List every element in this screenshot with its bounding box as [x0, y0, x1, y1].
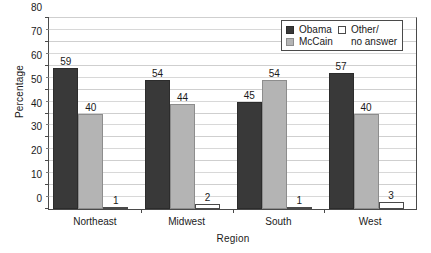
bar-mccain-northeast: 40 [78, 114, 103, 210]
y-axis-minor-tick [46, 124, 49, 125]
bar-value-label: 45 [244, 90, 255, 101]
y-axis-tick [45, 160, 49, 161]
y-axis-minor-tick [46, 172, 49, 173]
legend-label-no-answer: no answer [351, 36, 397, 47]
bar-chart: Percentage 01020304050607080 NortheastMi… [0, 0, 431, 253]
bar-value-label: 3 [388, 190, 394, 201]
y-axis-label: 30 [31, 121, 42, 132]
y-axis-minor-tick [46, 101, 49, 102]
bar-value-label: 2 [205, 192, 211, 203]
legend-label-obama: Obama [299, 24, 333, 35]
y-axis-minor-tick [46, 196, 49, 197]
y-axis-label: 80 [31, 2, 42, 13]
y-axis-minor-tick [46, 77, 49, 78]
x-axis-category-label: Midwest [168, 216, 205, 227]
y-axis-label: 50 [31, 73, 42, 84]
bar-other-south: 1 [287, 207, 312, 209]
bar-value-label: 40 [85, 102, 96, 113]
y-axis-minor-tick [46, 53, 49, 54]
legend-swatch-obama [286, 26, 294, 34]
x-axis-tick [324, 209, 325, 213]
y-axis-label: 0 [36, 193, 42, 204]
bar-obama-south: 45 [237, 102, 262, 209]
y-axis-tick [45, 136, 49, 137]
bar-obama-midwest: 54 [145, 80, 170, 209]
gridline [49, 89, 416, 90]
y-axis-tick [45, 89, 49, 90]
legend-swatch-other [338, 26, 346, 34]
y-axis-label: 40 [31, 97, 42, 108]
y-axis-tick [45, 113, 49, 114]
bar-value-label: 59 [60, 56, 71, 67]
bar-value-label: 1 [297, 195, 303, 206]
chart-legend: Obama Other/ McCain no answer [281, 20, 403, 51]
bar-other-midwest: 2 [195, 204, 220, 209]
gridline [49, 17, 416, 18]
gridline [49, 53, 416, 54]
y-axis-tick [45, 41, 49, 42]
legend-swatch-blank [338, 38, 346, 46]
legend-label-mccain: McCain [299, 36, 333, 47]
bar-value-label: 1 [113, 195, 119, 206]
y-axis-tick [45, 184, 49, 185]
gridline [49, 65, 416, 66]
y-axis-minor-tick [46, 29, 49, 30]
y-axis-title: Percentage [14, 32, 25, 152]
bar-mccain-midwest: 44 [170, 104, 195, 209]
bar-obama-northeast: 59 [53, 68, 78, 209]
bar-value-label: 57 [336, 61, 347, 72]
y-axis-minor-tick [46, 148, 49, 149]
x-axis-tick [233, 209, 234, 213]
x-axis-category-label: South [265, 216, 291, 227]
y-axis-tick [45, 65, 49, 66]
bar-value-label: 54 [269, 68, 280, 79]
y-axis-label: 20 [31, 145, 42, 156]
bar-mccain-south: 54 [262, 80, 287, 209]
y-axis-label: 70 [31, 25, 42, 36]
legend-label-other: Other/ [351, 24, 397, 35]
x-axis-title: Region [48, 233, 418, 244]
y-axis-tick [45, 208, 49, 209]
gridline [49, 77, 416, 78]
bar-value-label: 40 [361, 102, 372, 113]
y-axis-label: 10 [31, 169, 42, 180]
bar-mccain-west: 40 [354, 114, 379, 210]
x-axis-category-label: West [359, 216, 382, 227]
y-axis-label: 60 [31, 49, 42, 60]
bar-other-west: 3 [379, 202, 404, 209]
bar-other-northeast: 1 [103, 207, 128, 209]
x-axis-category-label: Northeast [73, 216, 116, 227]
x-axis-tick [141, 209, 142, 213]
bar-obama-west: 57 [329, 73, 354, 209]
legend-swatch-mccain [286, 38, 294, 46]
bar-value-label: 54 [152, 68, 163, 79]
y-axis-tick [45, 17, 49, 18]
bar-value-label: 44 [177, 92, 188, 103]
